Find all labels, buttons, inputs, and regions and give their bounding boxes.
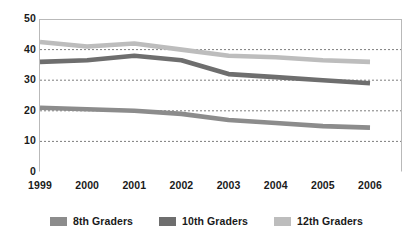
legend-entry: 12th Graders bbox=[274, 215, 363, 227]
chart-canvas bbox=[0, 0, 413, 244]
x-tick-label: 1999 bbox=[17, 178, 63, 192]
x-tick-label: 2001 bbox=[111, 178, 157, 192]
legend-label: 12th Graders bbox=[297, 215, 363, 227]
y-tick-label: 20 bbox=[2, 105, 36, 116]
x-tick-label: 2003 bbox=[206, 178, 252, 192]
y-axis: 50403020100 bbox=[0, 0, 36, 244]
legend-entry: 8th Graders bbox=[50, 215, 133, 227]
x-tick-label: 2004 bbox=[253, 178, 299, 192]
chart-legend: 8th Graders10th Graders12th Graders bbox=[0, 212, 413, 230]
x-tick-label: 2000 bbox=[64, 178, 110, 192]
legend-label: 8th Graders bbox=[73, 215, 133, 227]
legend-swatch-icon bbox=[274, 217, 291, 226]
legend-label: 10th Graders bbox=[182, 215, 248, 227]
line-chart: 50403020100 1999200020012002200320042005… bbox=[0, 0, 413, 244]
y-tick-label: 10 bbox=[2, 135, 36, 146]
x-tick-label: 2006 bbox=[347, 178, 393, 192]
legend-swatch-icon bbox=[50, 217, 67, 226]
y-tick-label: 0 bbox=[2, 166, 36, 177]
x-tick-label: 2005 bbox=[300, 178, 346, 192]
y-tick-label: 30 bbox=[2, 74, 36, 85]
legend-entry: 10th Graders bbox=[159, 215, 248, 227]
x-tick-label: 2002 bbox=[158, 178, 204, 192]
y-tick-label: 50 bbox=[2, 13, 36, 24]
x-axis: 19992000200120022003200420052006 bbox=[0, 178, 413, 194]
series-group bbox=[40, 42, 370, 128]
legend-swatch-icon bbox=[159, 217, 176, 226]
y-tick-label: 40 bbox=[2, 44, 36, 55]
